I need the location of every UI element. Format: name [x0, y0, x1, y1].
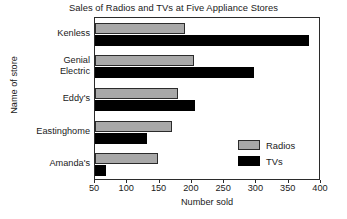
y-tick-label-genial-electric: GenialElectric — [2, 55, 90, 76]
bar-tvs-kenless — [95, 35, 309, 46]
x-tick-label-400: 400 — [312, 183, 327, 193]
x-tick-label-150: 150 — [151, 183, 166, 193]
bar-tvs-genial-electric — [95, 67, 254, 78]
chart-title: Sales of Radios and TVs at Five Applianc… — [0, 2, 347, 13]
x-axis-title: Number sold — [94, 197, 320, 207]
y-axis-tick-labels: KenlessGenialElectricEddy'sEastinghomeAm… — [0, 17, 90, 180]
x-tick-label-50: 50 — [89, 183, 99, 193]
y-tick-label-line: Amanda's — [2, 158, 90, 169]
bar-radios-eddy-s — [95, 88, 178, 99]
legend-label-radios: Radios — [266, 140, 295, 151]
x-tick-label-350: 350 — [280, 183, 295, 193]
y-tick-label-line: Genial — [2, 55, 90, 66]
bar-tvs-eastinghome — [95, 133, 147, 144]
x-tick-label-300: 300 — [248, 183, 263, 193]
legend-item-radios: Radios — [238, 138, 314, 152]
x-tick-label-100: 100 — [119, 183, 134, 193]
y-tick-label-line: Kenless — [2, 28, 90, 39]
bar-radios-amanda-s — [95, 153, 158, 164]
bar-radios-genial-electric — [95, 55, 194, 66]
x-axis-ticks: 50100150200250300350400 — [94, 180, 320, 194]
legend-swatch-radios — [238, 140, 260, 150]
legend-label-tvs: TVs — [266, 156, 283, 167]
y-tick-label-line: Eddy's — [2, 93, 90, 104]
bar-radios-eastinghome — [95, 121, 172, 132]
y-tick-label-eastinghome: Eastinghome — [2, 126, 90, 137]
y-tick-label-eddy-s: Eddy's — [2, 93, 90, 104]
legend-swatch-tvs — [238, 156, 260, 166]
y-tick-label-line: Electric — [2, 66, 90, 77]
x-tick-label-200: 200 — [183, 183, 198, 193]
bar-tvs-amanda-s — [95, 165, 106, 176]
legend-item-tvs: TVs — [238, 154, 314, 168]
bar-radios-kenless — [95, 23, 185, 34]
y-tick-label-kenless: Kenless — [2, 28, 90, 39]
bar-chart: Sales of Radios and TVs at Five Applianc… — [0, 0, 347, 219]
x-tick-label-250: 250 — [215, 183, 230, 193]
y-tick-label-line: Eastinghome — [2, 126, 90, 137]
chart-legend: RadiosTVs — [238, 138, 314, 170]
y-tick-label-amanda-s: Amanda's — [2, 158, 90, 169]
bar-tvs-eddy-s — [95, 100, 195, 111]
